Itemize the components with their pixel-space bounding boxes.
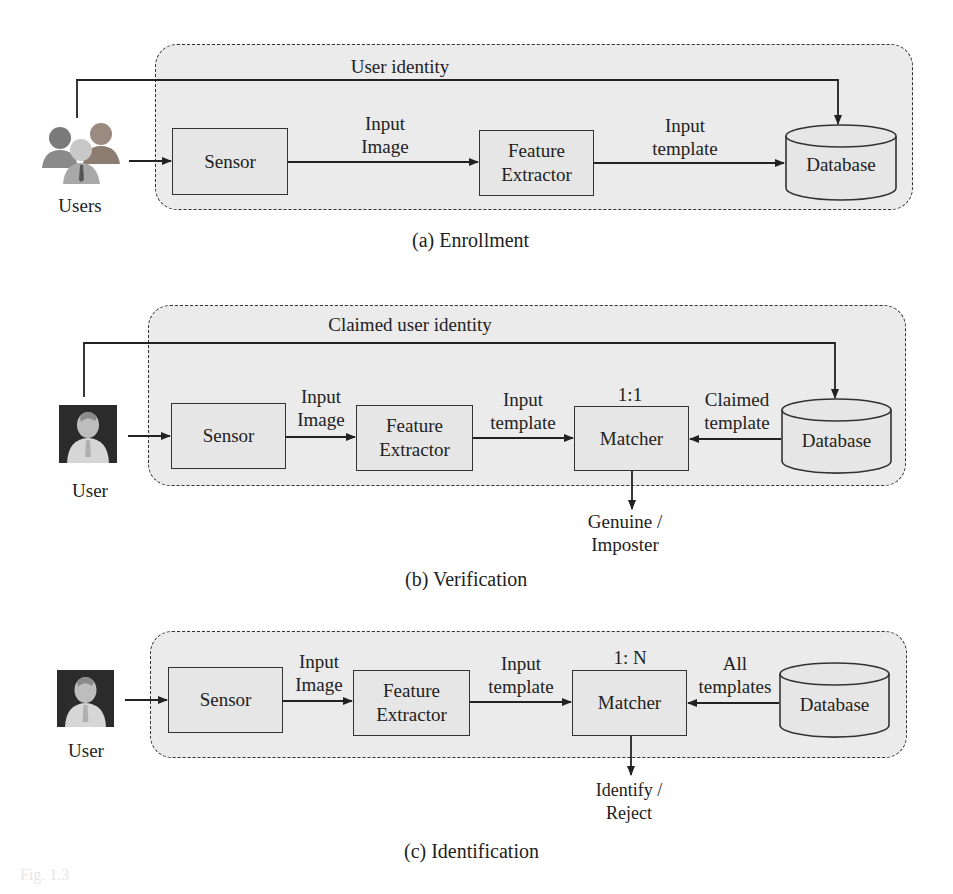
identification-all-templates-label: All templates	[692, 652, 778, 698]
verification-input-image-label: Input Image	[290, 385, 352, 431]
database-label: Database	[781, 430, 892, 452]
user-portrait-icon	[57, 670, 114, 727]
sensor-label: Sensor	[204, 150, 256, 174]
edge-label-line2: template	[630, 137, 740, 160]
output-line1: Genuine /	[570, 510, 680, 533]
sensor-label: Sensor	[203, 424, 255, 448]
edge-label-line2: Image	[335, 135, 435, 158]
enrollment-database: Database	[785, 124, 897, 202]
edge-label-line2: template	[476, 675, 566, 698]
identification-input-image-label: Input Image	[288, 650, 350, 696]
sensor-label: Sensor	[200, 688, 252, 712]
fe-label-line1: Feature	[383, 679, 440, 703]
user-portrait-icon	[59, 405, 117, 463]
identification-sensor-block: Sensor	[168, 667, 283, 733]
output-line2: Imposter	[570, 533, 680, 556]
output-line2: Reject	[574, 802, 684, 825]
fe-label-line1: Feature	[508, 139, 565, 163]
edge-label-line2: template	[478, 411, 568, 434]
bleed-through-text: Fig. 1.3	[20, 866, 69, 884]
edge-label-line1: Input	[288, 650, 350, 673]
enrollment-identity-label: User identity	[330, 55, 470, 78]
edge-label-line1: Claimed	[696, 388, 778, 411]
edge-label-line2: templates	[692, 675, 778, 698]
database-label: Database	[785, 154, 897, 176]
caption-enrollment: (a) Enrollment	[412, 229, 529, 252]
edge-label-line2: template	[696, 411, 778, 434]
fe-label-line2: Extractor	[501, 163, 572, 187]
caption-verification: (b) Verification	[405, 568, 527, 591]
edge-label-line2: Image	[288, 673, 350, 696]
edge-label-line1: Input	[476, 652, 566, 675]
user-label: User	[51, 739, 121, 762]
identification-input-template-label: Input template	[476, 652, 566, 698]
verification-identity-label: Claimed user identity	[310, 313, 510, 336]
database-label: Database	[779, 694, 890, 716]
verification-matcher-mode: 1:1	[600, 383, 660, 406]
edge-label-line1: Input	[290, 385, 352, 408]
user-label: User	[55, 479, 125, 502]
verification-input-template-label: Input template	[478, 388, 568, 434]
edge-label-line2: Image	[290, 408, 352, 431]
verification-claimed-template-label: Claimed template	[696, 388, 778, 434]
matcher-label: Matcher	[598, 691, 661, 715]
verification-matcher-block: Matcher	[574, 406, 689, 471]
edge-label-line1: Input	[630, 114, 740, 137]
verification-database: Database	[781, 398, 892, 475]
verification-sensor-block: Sensor	[171, 403, 286, 469]
verification-output-label: Genuine / Imposter	[570, 510, 680, 556]
fe-label-line2: Extractor	[379, 438, 450, 462]
output-line1: Identify /	[574, 779, 684, 802]
enrollment-input-image-label: Input Image	[335, 112, 435, 158]
edge-label-line1: Input	[478, 388, 568, 411]
identification-database: Database	[779, 662, 890, 739]
identification-matcher-mode: 1: N	[598, 646, 662, 669]
fe-label-line2: Extractor	[376, 703, 447, 727]
matcher-label: Matcher	[600, 427, 663, 451]
identification-feature-extractor-block: Feature Extractor	[353, 670, 470, 736]
fe-label-line1: Feature	[386, 414, 443, 438]
verification-feature-extractor-block: Feature Extractor	[356, 405, 473, 471]
identification-output-label: Identify / Reject	[574, 779, 684, 825]
enrollment-feature-extractor-block: Feature Extractor	[479, 130, 594, 196]
identification-matcher-block: Matcher	[572, 670, 687, 736]
users-label: Users	[40, 194, 120, 217]
edge-label-line1: Input	[335, 112, 435, 135]
users-group-icon	[38, 118, 124, 188]
enrollment-input-template-label: Input template	[630, 114, 740, 160]
caption-identification: (c) Identification	[404, 840, 539, 863]
edge-label-line1: All	[692, 652, 778, 675]
enrollment-sensor-block: Sensor	[172, 128, 288, 195]
